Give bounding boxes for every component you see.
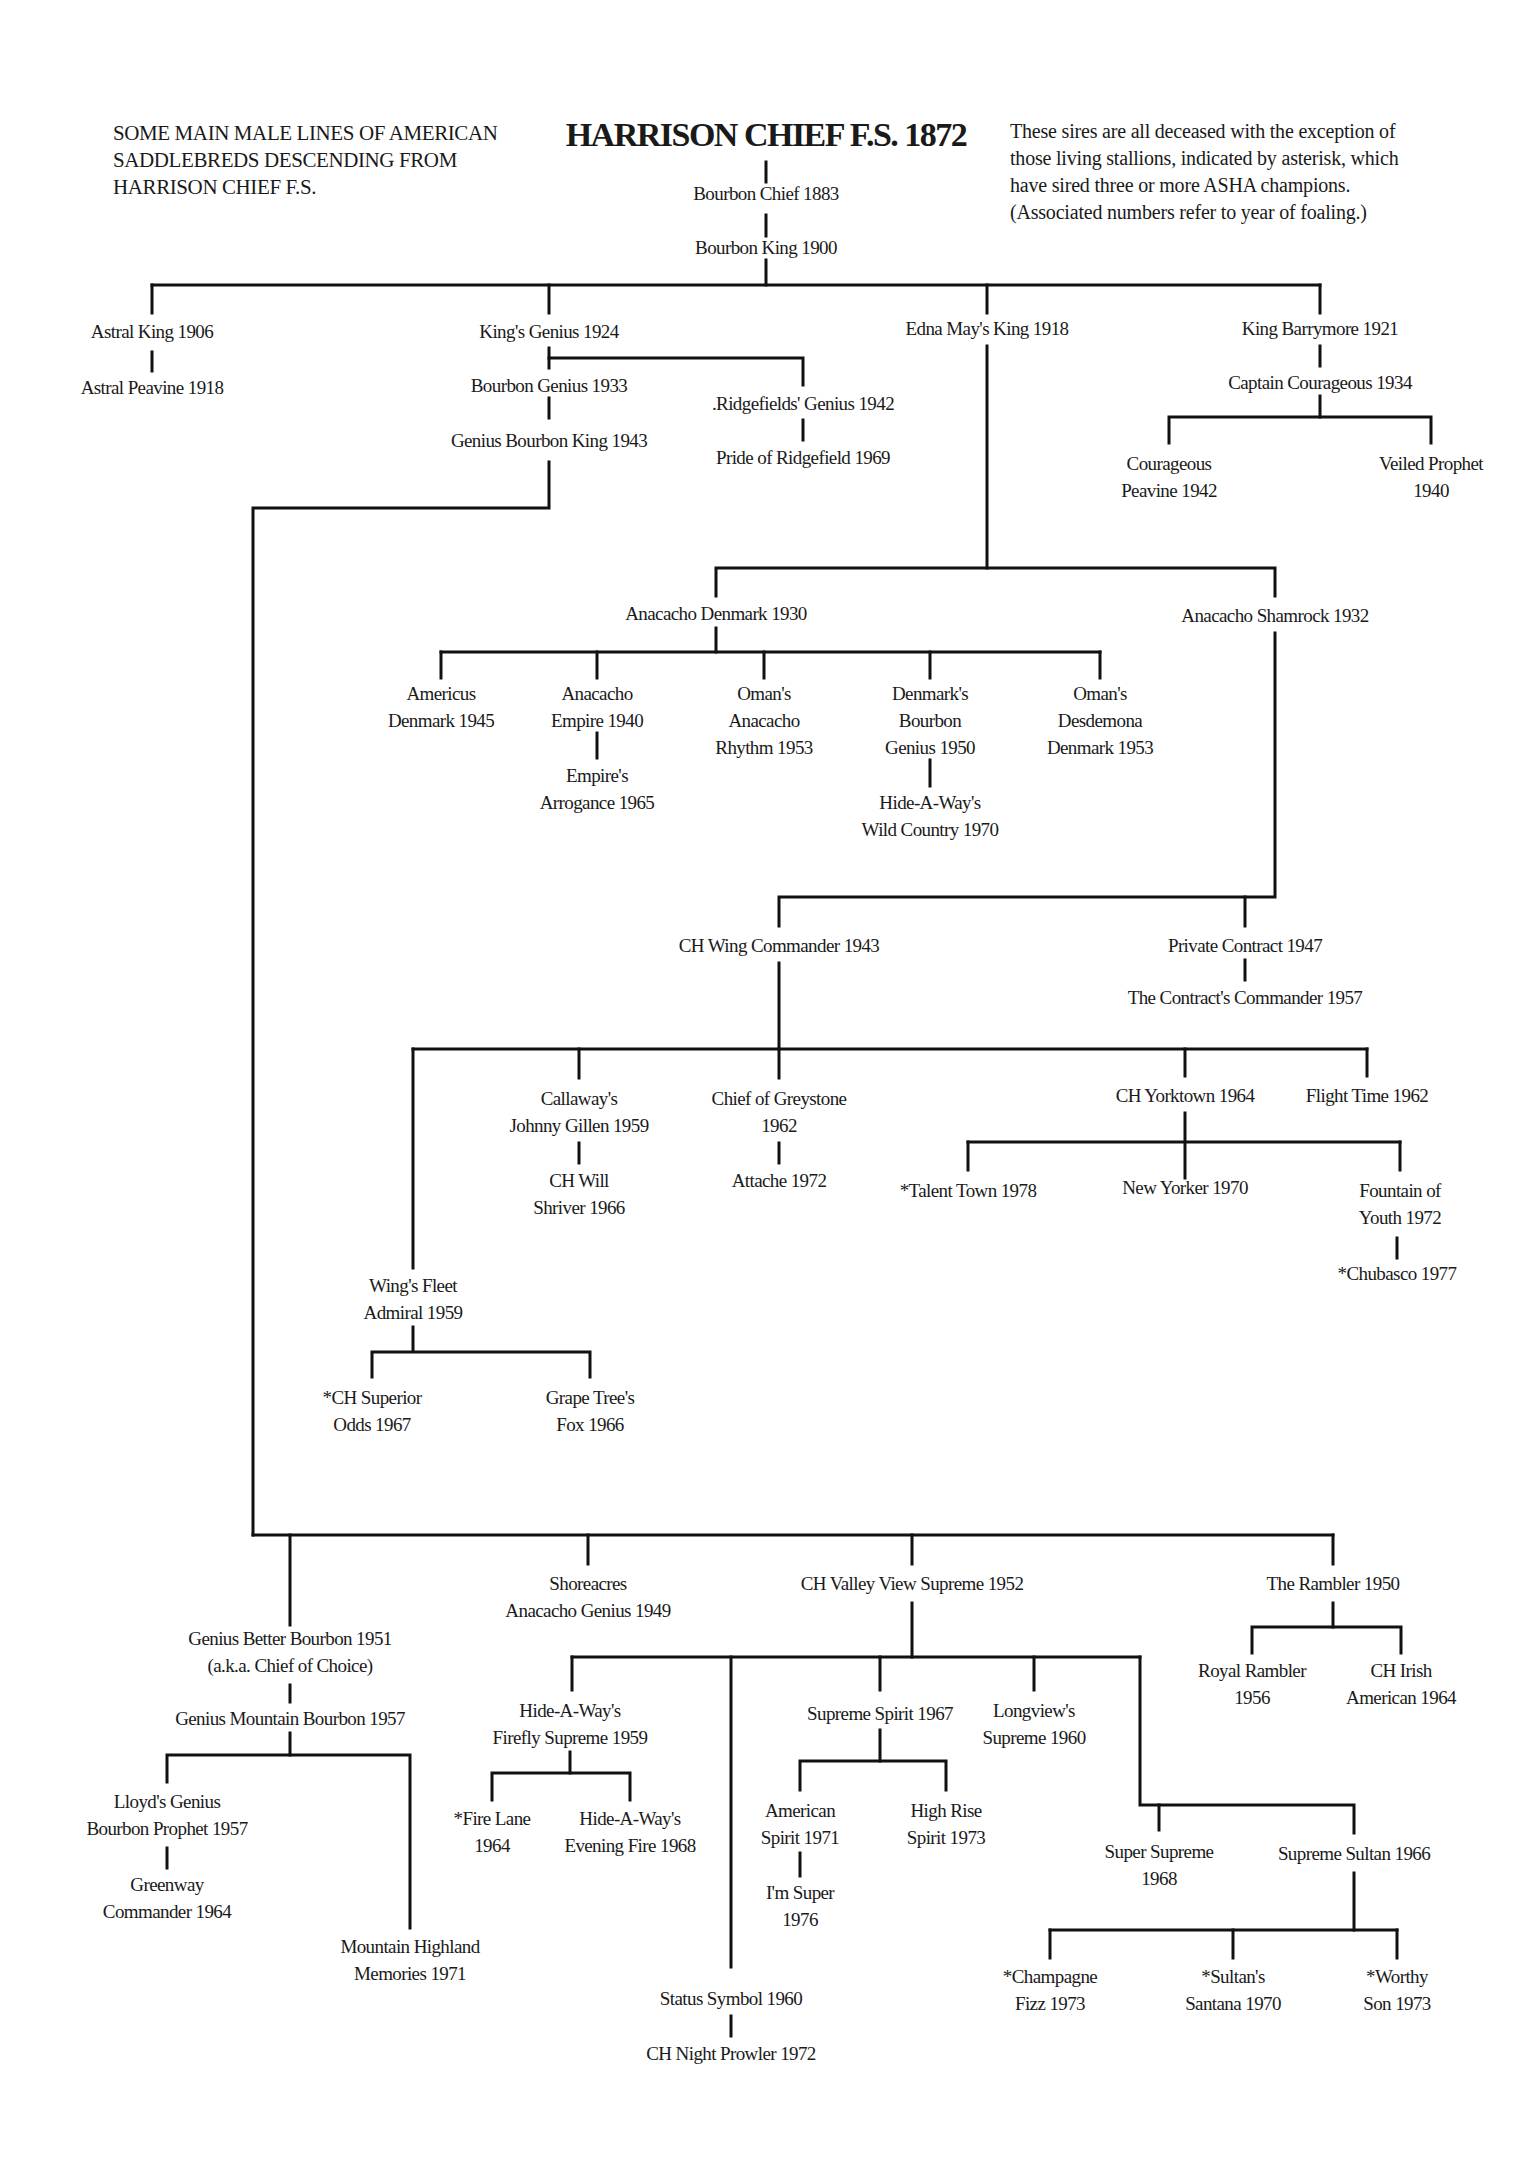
node-super-supreme: Super Supreme 1968 bbox=[1105, 1838, 1214, 1892]
node-omans-anacacho-rhythm: Oman's Anacacho Rhythm 1953 bbox=[715, 680, 812, 761]
node-wings-fleet-admiral: Wing's Fleet Admiral 1959 bbox=[364, 1272, 463, 1326]
node-grape-trees-fox: Grape Tree's Fox 1966 bbox=[546, 1384, 635, 1438]
node-denmarks-bourbon-genius: Denmark's Bourbon Genius 1950 bbox=[885, 680, 975, 761]
node-high-rise-spirit: High Rise Spirit 1973 bbox=[907, 1797, 985, 1851]
node-ch-valley-view-supreme: CH Valley View Supreme 1952 bbox=[801, 1570, 1024, 1597]
node-champagne-fizz: *Champagne Fizz 1973 bbox=[1003, 1963, 1097, 2017]
node-bourbon-chief: Bourbon Chief 1883 bbox=[693, 180, 838, 207]
legend-note: These sires are all deceased with the ex… bbox=[1010, 118, 1398, 226]
node-hideaways-evening-fire: Hide-A-Way's Evening Fire 1968 bbox=[564, 1805, 695, 1859]
root-sire-title: HARRISON CHIEF F.S. 1872 bbox=[566, 116, 967, 154]
node-astral-king: Astral King 1906 bbox=[91, 318, 213, 345]
node-hideaways-wild-country: Hide-A-Way's Wild Country 1970 bbox=[862, 789, 999, 843]
node-royal-rambler: Royal Rambler 1956 bbox=[1198, 1657, 1306, 1711]
node-bourbon-genius: Bourbon Genius 1933 bbox=[471, 372, 627, 399]
node-courageous-peavine: Courageous Peavine 1942 bbox=[1121, 450, 1217, 504]
node-veiled-prophet: Veiled Prophet 1940 bbox=[1379, 450, 1483, 504]
node-pride-of-ridgefield: Pride of Ridgefield 1969 bbox=[716, 444, 890, 471]
node-chief-of-greystone: Chief of Greystone 1962 bbox=[712, 1085, 847, 1139]
node-callaways-johnny-gillen: Callaway's Johnny Gillen 1959 bbox=[509, 1085, 648, 1139]
node-the-rambler: The Rambler 1950 bbox=[1267, 1570, 1400, 1597]
node-mountain-highland-memories: Mountain Highland Memories 1971 bbox=[340, 1933, 479, 1987]
chart-caption: SOME MAIN MALE LINES OF AMERICAN SADDLEB… bbox=[113, 120, 497, 201]
node-status-symbol: Status Symbol 1960 bbox=[660, 1985, 802, 2012]
node-chubasco: *Chubasco 1977 bbox=[1338, 1260, 1457, 1287]
node-king-barrymore: King Barrymore 1921 bbox=[1242, 315, 1398, 342]
node-ch-wing-commander: CH Wing Commander 1943 bbox=[679, 932, 879, 959]
node-ch-will-shriver: CH Will Shriver 1966 bbox=[533, 1167, 624, 1221]
node-fountain-of-youth: Fountain of Youth 1972 bbox=[1359, 1177, 1441, 1231]
node-anacacho-empire: Anacacho Empire 1940 bbox=[551, 680, 643, 734]
node-shoreacres-anacacho-genius: Shoreacres Anacacho Genius 1949 bbox=[505, 1570, 670, 1624]
node-captain-courageous: Captain Courageous 1934 bbox=[1228, 369, 1412, 396]
node-ridgefields-genius: .Ridgefields' Genius 1942 bbox=[712, 390, 894, 417]
node-longviews-supreme: Longview's Supreme 1960 bbox=[982, 1697, 1085, 1751]
node-worthy-son: *Worthy Son 1973 bbox=[1363, 1963, 1431, 2017]
node-greenway-commander: Greenway Commander 1964 bbox=[103, 1871, 231, 1925]
node-ch-irish-american: CH Irish American 1964 bbox=[1346, 1657, 1456, 1711]
node-genius-mountain-bourbon: Genius Mountain Bourbon 1957 bbox=[175, 1705, 405, 1732]
node-ch-superior-odds: *CH Superior Odds 1967 bbox=[323, 1384, 422, 1438]
node-edna-mays-king: Edna May's King 1918 bbox=[906, 315, 1069, 342]
node-fire-lane: *Fire Lane 1964 bbox=[454, 1805, 531, 1859]
node-ch-yorktown: CH Yorktown 1964 bbox=[1116, 1082, 1255, 1109]
node-genius-better-bourbon: Genius Better Bourbon 1951 (a.k.a. Chief… bbox=[188, 1625, 391, 1679]
node-flight-time: Flight Time 1962 bbox=[1306, 1082, 1428, 1109]
node-supreme-sultan: Supreme Sultan 1966 bbox=[1278, 1840, 1430, 1867]
node-anacacho-denmark: Anacacho Denmark 1930 bbox=[625, 600, 807, 627]
node-lloyds-genius-bourbon-prophet: Lloyd's Genius Bourbon Prophet 1957 bbox=[86, 1788, 247, 1842]
node-new-yorker: New Yorker 1970 bbox=[1122, 1174, 1248, 1201]
node-anacacho-shamrock: Anacacho Shamrock 1932 bbox=[1181, 602, 1368, 629]
node-bourbon-king: Bourbon King 1900 bbox=[695, 234, 837, 261]
node-genius-bourbon-king: Genius Bourbon King 1943 bbox=[451, 427, 647, 454]
node-kings-genius: King's Genius 1924 bbox=[479, 318, 618, 345]
node-talent-town: *Talent Town 1978 bbox=[900, 1177, 1037, 1204]
node-contracts-commander: The Contract's Commander 1957 bbox=[1128, 984, 1363, 1011]
node-attache: Attache 1972 bbox=[732, 1167, 827, 1194]
node-private-contract: Private Contract 1947 bbox=[1168, 932, 1322, 959]
node-astral-peavine: Astral Peavine 1918 bbox=[81, 374, 224, 401]
node-american-spirit: American Spirit 1971 bbox=[761, 1797, 839, 1851]
node-im-super: I'm Super 1976 bbox=[766, 1879, 834, 1933]
node-ch-night-prowler: CH Night Prowler 1972 bbox=[646, 2040, 815, 2067]
node-hideaways-firefly-supreme: Hide-A-Way's Firefly Supreme 1959 bbox=[493, 1697, 648, 1751]
node-americus-denmark: Americus Denmark 1945 bbox=[388, 680, 494, 734]
node-sultans-santana: *Sultan's Santana 1970 bbox=[1185, 1963, 1281, 2017]
node-empires-arrogance: Empire's Arrogance 1965 bbox=[540, 762, 655, 816]
node-omans-desdemona-denmark: Oman's Desdemona Denmark 1953 bbox=[1047, 680, 1153, 761]
node-supreme-spirit: Supreme Spirit 1967 bbox=[807, 1700, 953, 1727]
